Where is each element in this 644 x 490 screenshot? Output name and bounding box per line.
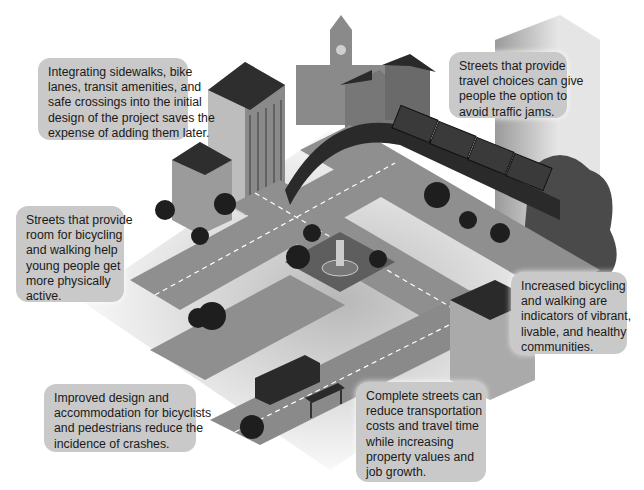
callout-line: indicators of vibrant, — [521, 309, 618, 324]
building-cafe — [172, 142, 232, 235]
callout-line: room for bicycling — [26, 228, 115, 243]
callout-line: reduce transportation — [366, 404, 477, 419]
callout-line: costs and travel time — [366, 419, 477, 434]
callout-line: Increased bicycling — [521, 279, 618, 294]
callout-line: and pedestrians reduce the — [54, 421, 187, 436]
callout-line: Streets that provide — [459, 59, 558, 74]
callout-line: expense of adding them later. — [48, 126, 179, 141]
callout-integrating: Integrating sidewalks, bike lanes, trans… — [38, 58, 188, 140]
callout-line: safe crossings into the initial — [48, 95, 179, 110]
callout-line: more physically — [26, 274, 115, 289]
callout-line: young people get — [26, 259, 115, 274]
callout-line: active. — [26, 289, 115, 304]
callout-line: livable, and healthy — [521, 325, 618, 340]
callout-line: Integrating sidewalks, bike — [48, 65, 179, 80]
callout-vibrant: Increased bicycling and walking are indi… — [511, 272, 627, 354]
callout-line: and walking help — [26, 243, 115, 258]
callout-line: job growth. — [366, 465, 477, 480]
callout-line: incidence of crashes. — [54, 437, 187, 452]
callout-young-people: Streets that provide room for bicycling … — [16, 206, 124, 302]
callout-travel-choices: Streets that provide travel choices can … — [449, 52, 567, 118]
callout-line: accommodation for bicyclists — [54, 406, 187, 421]
callout-line: design of the project saves the — [48, 111, 179, 126]
callout-line: Complete streets can — [366, 389, 477, 404]
callout-line: travel choices can give — [459, 74, 558, 89]
callout-crashes: Improved design and accommodation for bi… — [44, 384, 196, 452]
callout-line: people the option to — [459, 89, 558, 104]
callout-line: Streets that provide — [26, 213, 115, 228]
callout-line: and walking are — [521, 294, 618, 309]
callout-line: Improved design and — [54, 391, 187, 406]
callout-line: while increasing — [366, 435, 477, 450]
callout-line: communities. — [521, 340, 618, 355]
callout-line: avoid traffic jams. — [459, 105, 558, 120]
callout-costs: Complete streets can reduce transportati… — [356, 382, 486, 482]
callout-line: lanes, transit amenities, and — [48, 80, 179, 95]
callout-line: property values and — [366, 450, 477, 465]
